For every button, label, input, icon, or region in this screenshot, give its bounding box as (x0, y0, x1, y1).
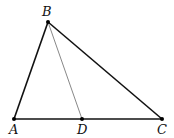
label-b: B (41, 4, 52, 19)
triangle-diagram: B A D C (0, 0, 174, 138)
label-c: C (157, 122, 167, 137)
point-c (160, 117, 164, 121)
point-b (46, 20, 50, 24)
label-a: A (8, 122, 18, 137)
point-d (80, 117, 84, 121)
point-a (12, 117, 16, 121)
label-d: D (76, 122, 88, 137)
segment-ab (14, 22, 48, 119)
